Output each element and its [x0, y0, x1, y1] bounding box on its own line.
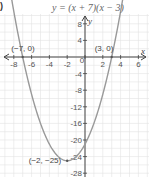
svg-text:y: y	[87, 16, 92, 26]
svg-text:x: x	[140, 46, 145, 56]
annotation-label: (−2, −25)	[29, 156, 62, 165]
annotation-label: (3, 0)	[95, 44, 114, 53]
svg-text:-4: -4	[75, 70, 83, 79]
svg-text:4: 4	[78, 36, 83, 45]
svg-text:-12: -12	[70, 103, 82, 112]
svg-text:-2: -2	[64, 60, 72, 69]
annotation-label: (−7, 0)	[11, 44, 35, 53]
svg-text:-16: -16	[70, 119, 82, 128]
svg-text:-28: -28	[70, 169, 82, 177]
svg-text:8: 8	[78, 20, 83, 29]
svg-text:-8: -8	[75, 86, 83, 95]
svg-text:-20: -20	[70, 136, 82, 145]
parabola-chart: yx -8-6-4-2024684-4-8-12-16-20-24-28 (−7…	[0, 0, 149, 177]
svg-text:-6: -6	[28, 60, 36, 69]
svg-text:0: 0	[80, 56, 85, 65]
point-annotations: (−7, 0)(3, 0)(−2, −25)	[11, 44, 113, 165]
svg-text:2: 2	[101, 60, 106, 69]
svg-text:-8: -8	[10, 60, 18, 69]
svg-text:6: 6	[136, 60, 141, 69]
svg-text:4: 4	[118, 60, 123, 69]
chart-title: y = (x + 7)(x − 3)	[51, 2, 125, 14]
svg-text:-4: -4	[46, 60, 54, 69]
